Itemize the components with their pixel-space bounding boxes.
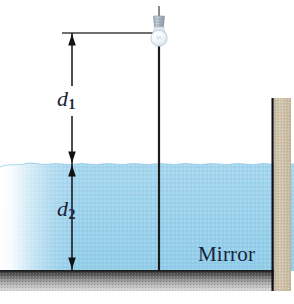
right-wall — [272, 98, 292, 291]
d1-arrowhead-bottom — [68, 152, 76, 164]
light-bulb-icon — [151, 6, 167, 46]
d1-label: d1 — [57, 88, 75, 112]
mirror-surface — [0, 270, 291, 291]
d2-label: d2 — [57, 198, 75, 222]
physics-diagram: d1 d2 Mirror — [0, 0, 294, 304]
d1-label-text: d — [57, 86, 68, 111]
mirror-label: Mirror — [198, 244, 255, 265]
d2-label-text: d — [57, 196, 68, 221]
d1-label-subscript: 1 — [68, 97, 75, 112]
d2-label-subscript: 2 — [68, 207, 75, 222]
d1-arrowhead-top — [68, 34, 76, 46]
